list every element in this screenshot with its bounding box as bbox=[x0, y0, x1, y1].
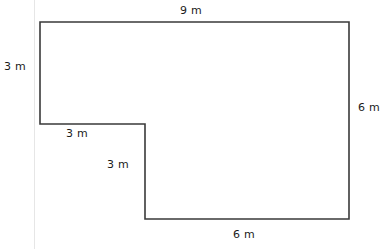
dimension-label-top: 9 m bbox=[180, 4, 202, 17]
dimension-label-right: 6 m bbox=[358, 101, 380, 114]
diagram-canvas: 9 m 3 m 6 m 3 m 3 m 6 m bbox=[0, 0, 391, 249]
dimension-label-left: 3 m bbox=[4, 60, 26, 73]
l-shaped-polygon bbox=[40, 22, 349, 219]
dimension-label-notch-top: 3 m bbox=[66, 127, 88, 140]
dimension-label-bottom: 6 m bbox=[233, 228, 255, 241]
dimension-label-notch-left: 3 m bbox=[107, 158, 129, 171]
l-shape-figure bbox=[0, 0, 391, 249]
